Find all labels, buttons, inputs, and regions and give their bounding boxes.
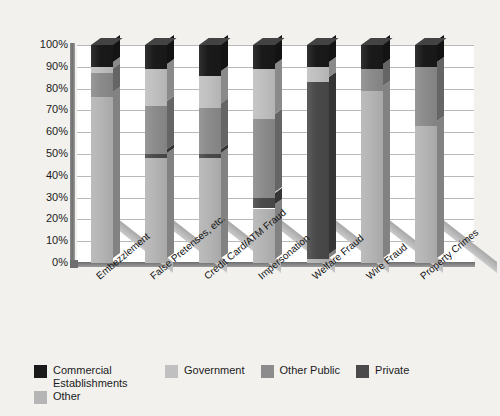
bar-top-cap (307, 38, 329, 45)
bar-top-cap (91, 38, 113, 45)
bar-segment (91, 73, 113, 97)
legend-swatch (34, 391, 47, 404)
bar-segment (199, 45, 221, 76)
y-axis-tick-label: 100% (6, 39, 68, 50)
bar-segment (415, 45, 437, 67)
legend-item[interactable]: Government (165, 364, 245, 378)
stacked-bar-chart: 100%90%80%70%60%50%40%30%20%10%0% Embezz… (0, 0, 500, 416)
bar-segment (199, 76, 221, 109)
bar-segment (91, 67, 113, 74)
y-axis-tick-label: 30% (6, 192, 68, 203)
bar-segment (91, 45, 113, 67)
legend-item[interactable]: Commercial Establishments (34, 364, 149, 390)
bar-segment (145, 158, 167, 263)
bar-segment (361, 69, 383, 91)
y-axis-tick-label: 80% (6, 83, 68, 94)
bar-top-cap (361, 38, 383, 45)
bar-segment (361, 45, 383, 69)
bar[interactable] (91, 45, 113, 263)
bar-segment (253, 119, 275, 197)
bar-segment (253, 69, 275, 119)
bar[interactable] (361, 45, 383, 263)
y-axis-tick-label: 10% (6, 235, 68, 246)
y-axis-tick-label: 90% (6, 61, 68, 72)
bar-segment (361, 91, 383, 263)
y-axis-tick-label: 70% (6, 104, 68, 115)
bar-segment (307, 45, 329, 67)
bar-segment (253, 45, 275, 69)
legend-label: Commercial Establishments (53, 364, 149, 390)
bar-segment (91, 97, 113, 263)
bar-segment (145, 154, 167, 158)
bar-segment (199, 108, 221, 154)
legend-label: Other (53, 390, 81, 403)
bar-top-cap (199, 38, 221, 45)
bar-segment (145, 106, 167, 154)
legend-label: Other Public (280, 364, 341, 377)
legend-swatch (34, 365, 47, 378)
y-axis-tick-label: 50% (6, 148, 68, 159)
bar[interactable] (145, 45, 167, 263)
bar-top-cap (253, 38, 275, 45)
bar-segment (145, 45, 167, 69)
y-axis-tick-label: 60% (6, 126, 68, 137)
legend-item[interactable]: Other Public (261, 364, 341, 378)
legend-swatch (261, 365, 274, 378)
bar-segment (307, 67, 329, 82)
bar-segment (253, 198, 275, 209)
legend-item[interactable]: Other (34, 390, 81, 404)
bar-top-cap (145, 38, 167, 45)
bar-top-cap (415, 38, 437, 45)
bar-segment (415, 126, 437, 263)
y-axis-tick-label: 20% (6, 213, 68, 224)
bar-segment (199, 154, 221, 158)
bar-segment (415, 67, 437, 126)
bar[interactable] (307, 45, 329, 263)
axis-corner (70, 260, 78, 268)
bar-segment (307, 82, 329, 259)
legend-label: Government (184, 364, 245, 377)
bar-segment (199, 158, 221, 263)
chart-legend: Commercial EstablishmentsGovernmentOther… (34, 364, 474, 404)
legend-item[interactable]: Private (356, 364, 409, 378)
y-axis-line (70, 43, 75, 265)
bar[interactable] (415, 45, 437, 263)
legend-swatch (165, 365, 178, 378)
legend-label: Private (375, 364, 409, 377)
y-axis-tick-label: 40% (6, 170, 68, 181)
y-axis-tick-labels: 100%90%80%70%60%50%40%30%20%10%0% (0, 0, 68, 416)
y-axis-tick-label: 0% (6, 257, 68, 268)
legend-swatch (356, 365, 369, 378)
bar-segment (145, 69, 167, 106)
